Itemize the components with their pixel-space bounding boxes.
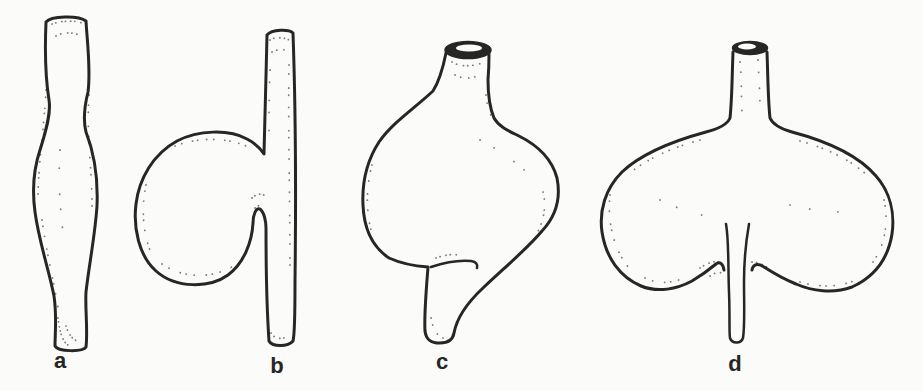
figure-b-label: b <box>270 355 283 377</box>
figure-b-drawing <box>135 30 295 345</box>
figure-d-left-outline <box>601 52 733 290</box>
figure-d-drawing <box>601 42 893 343</box>
figure-d-stipple-texture <box>609 60 886 286</box>
stomach-development-diagram <box>0 0 923 391</box>
figure-c-mouth-highlight <box>456 44 482 51</box>
figure-c-drawing <box>363 42 558 344</box>
figure-a-label: a <box>54 350 66 372</box>
figure-a-drawing <box>34 17 98 351</box>
scanned-figure-page: a b c d <box>0 0 923 391</box>
figure-d-mouth-highlight <box>738 44 756 50</box>
figure-a-outline <box>34 17 98 351</box>
figure-d-right-outline <box>752 52 893 291</box>
figure-b-outline <box>135 30 295 345</box>
figure-c-outline <box>363 53 558 343</box>
figure-d-lower-tube <box>726 224 749 343</box>
diagram-canvas: a b c d <box>0 0 923 391</box>
figure-d-label: d <box>728 353 741 375</box>
figure-c-label: c <box>436 351 448 373</box>
